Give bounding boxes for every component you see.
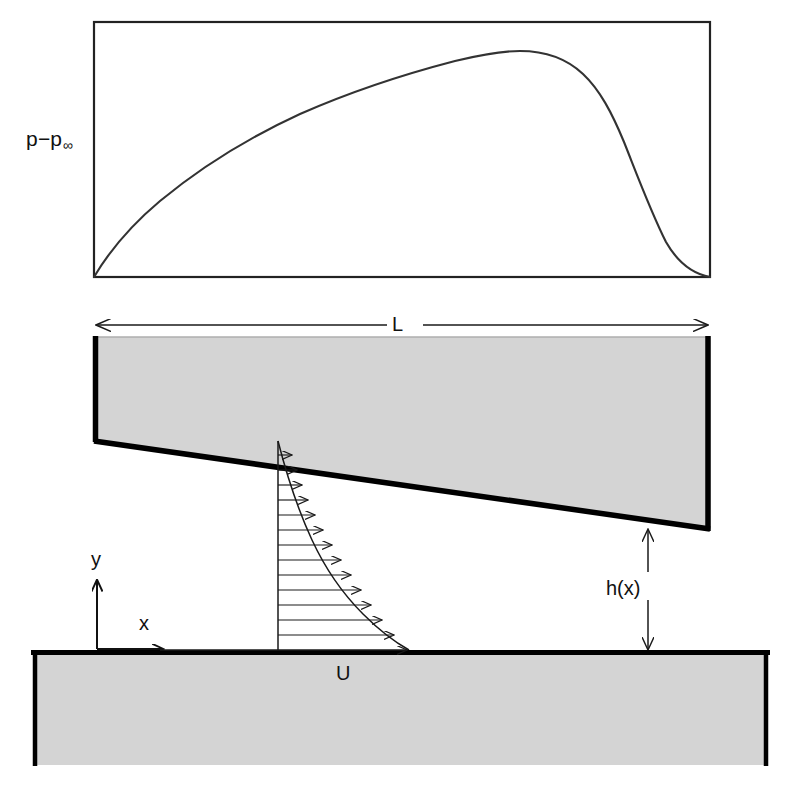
x-axis-label: x <box>139 613 149 633</box>
gap-label: h(x) <box>606 578 640 598</box>
bottom-plate-body <box>33 650 768 765</box>
pressure-plot-frame <box>94 22 710 277</box>
figure-caption <box>10 795 790 812</box>
pressure-plot <box>94 22 710 277</box>
wall-velocity-label: U <box>336 663 350 683</box>
bottom-plate <box>31 650 770 766</box>
figure-canvas <box>0 0 798 812</box>
coordinate-axes <box>97 580 163 649</box>
slider-pad-body <box>94 337 710 529</box>
y-axis-label: y <box>91 549 101 569</box>
pressure-axis-label: p−p∞ <box>26 128 73 152</box>
slider-bearing-figure: p−p∞ L h(x) y x U <box>0 0 798 812</box>
slider-pad <box>94 336 710 531</box>
pressure-axis-label-main: p−p <box>26 127 62 150</box>
length-label: L <box>392 314 403 334</box>
pressure-axis-label-subscript: ∞ <box>63 137 73 153</box>
